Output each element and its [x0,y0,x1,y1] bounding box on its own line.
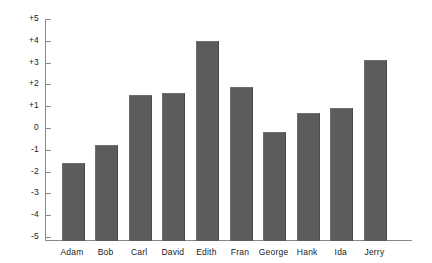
bar [162,93,185,241]
y-tick-mark [46,63,51,64]
bar [230,87,253,241]
bar-chart: +5+4+3+2+10-1-2-3-4-5 AdamBobCarlDavidEd… [0,0,432,263]
y-tick-mark [46,150,51,151]
y-tick-mark [46,172,51,173]
y-tick-label: +5 [7,13,39,23]
x-category-label: Jerry [344,247,404,257]
y-tick-label: -2 [7,166,39,176]
bar [129,95,152,241]
plot-area: +5+4+3+2+10-1-2-3-4-5 AdamBobCarlDavidEd… [0,0,432,263]
y-tick-mark [46,237,51,238]
y-tick-mark [46,41,51,42]
y-tick-label: +2 [7,78,39,88]
y-tick-label: +4 [7,35,39,45]
bar [196,41,219,241]
y-tick-label: -4 [7,209,39,219]
y-tick-label: -5 [7,231,39,241]
y-tick-label: +3 [7,57,39,67]
y-tick-mark [46,193,51,194]
y-tick-mark [46,19,51,20]
bar [95,145,118,241]
y-tick-mark [46,106,51,107]
y-tick-mark [46,215,51,216]
bar [364,60,387,241]
y-tick-mark [46,128,51,129]
bar [62,163,85,241]
y-tick-label: 0 [7,122,39,132]
y-tick-label: +1 [7,100,39,110]
y-tick-label: -1 [7,144,39,154]
bar [330,108,353,241]
bar [297,113,320,241]
y-axis-line [45,19,46,240]
y-tick-label: -3 [7,187,39,197]
y-tick-mark [46,84,51,85]
bar [263,132,286,241]
